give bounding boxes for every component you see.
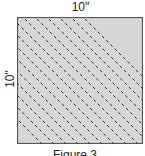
hatched-square	[17, 17, 143, 144]
width-dimension-label: 10"	[17, 0, 144, 14]
figure-caption: Figure 3	[40, 148, 110, 156]
height-dimension-label: 10"	[3, 67, 17, 91]
